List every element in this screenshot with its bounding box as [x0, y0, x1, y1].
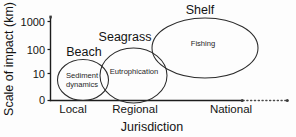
ellipse-shelf[interactable]	[152, 18, 258, 78]
y-axis-top-cap	[49, 16, 51, 19]
y-tick-label-1000: 1000	[21, 16, 45, 28]
y-tick-label-0: 0	[39, 94, 45, 106]
x-tick-label-regional: Regional	[112, 103, 157, 115]
x-axis-extension-start-dot	[241, 99, 244, 102]
y-tick-labels-group: 0 10 100 1000	[21, 16, 45, 107]
y-axis-title: Scale of impact (km)	[2, 2, 16, 116]
x-tick-labels-group: Local Regional National	[59, 103, 252, 115]
y-tick-label-10: 10	[33, 68, 45, 80]
group-label-beach: Beach	[66, 45, 101, 59]
item-label-sediment-dynamics-line2: dynamics	[66, 80, 98, 89]
figure-container: 0 10 100 1000 Scale of impact (km) Beach…	[0, 0, 296, 137]
chart-canvas: 0 10 100 1000 Scale of impact (km) Beach…	[0, 0, 296, 137]
item-label-eutrophication: Eutrophication	[110, 67, 159, 76]
item-label-fishing: Fishing	[191, 39, 215, 48]
x-axis-title: Jurisdiction	[121, 120, 184, 134]
group-label-shelf: Shelf	[186, 3, 215, 17]
x-tick-label-national: National	[210, 103, 252, 115]
x-axis-extension-end-dot	[286, 99, 289, 102]
group-label-seagrass: Seagrass	[99, 30, 152, 44]
item-label-sediment-dynamics-line1: Sediment	[66, 71, 99, 80]
ellipses-group	[58, 18, 259, 103]
x-tick-label-local: Local	[59, 103, 87, 115]
y-tick-label-100: 100	[27, 44, 45, 56]
